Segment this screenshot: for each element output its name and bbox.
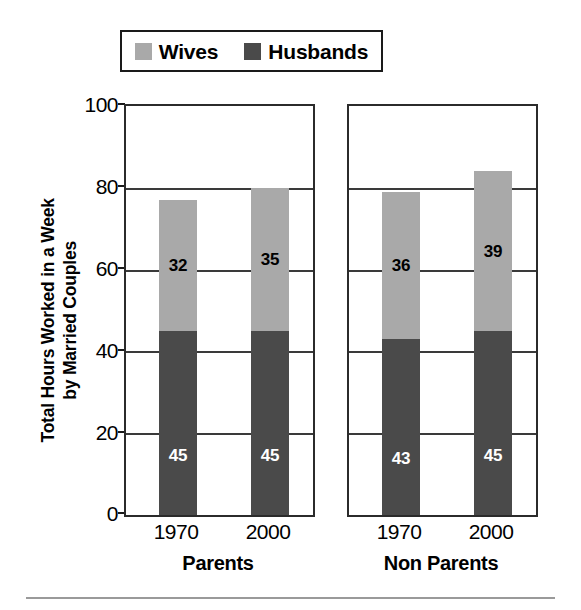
bar-value-husbands: 45 bbox=[474, 447, 512, 464]
legend-label-wives: Wives bbox=[159, 41, 219, 62]
husbands-swatch-icon bbox=[244, 43, 261, 60]
panel-parents: 32 45 35 45 bbox=[124, 104, 315, 517]
legend-item-husbands: Husbands bbox=[244, 41, 368, 62]
x-tick-non-parents-2000: 2000 bbox=[446, 521, 536, 542]
chart-legend: Wives Husbands bbox=[120, 30, 383, 72]
bar-value-wives: 32 bbox=[159, 257, 197, 274]
x-tick-parents-1970: 1970 bbox=[131, 521, 221, 542]
y-axis-ticks: 100 80 60 40 20 0 bbox=[68, 0, 118, 610]
bar-segment-wives: 35 bbox=[251, 188, 289, 331]
legend-item-wives: Wives bbox=[135, 41, 219, 62]
bar-value-husbands: 43 bbox=[382, 450, 420, 467]
y-axis-title-line-1: Total Hours Worked in a Week bbox=[37, 110, 59, 530]
bar-value-husbands: 45 bbox=[251, 447, 289, 464]
bottom-divider bbox=[26, 597, 555, 599]
wives-swatch-icon bbox=[135, 43, 152, 60]
bar-value-wives: 35 bbox=[251, 251, 289, 268]
chart-figure: Wives Husbands Total Hours Worked in a W… bbox=[0, 0, 581, 610]
x-tick-non-parents-1970: 1970 bbox=[354, 521, 444, 542]
bar-segment-husbands: 45 bbox=[159, 331, 197, 515]
panel-non-parents: 36 43 39 45 bbox=[347, 104, 538, 517]
bar-non-parents-1970[interactable]: 36 43 bbox=[382, 192, 420, 515]
x-tick-parents-2000: 2000 bbox=[223, 521, 313, 542]
bar-value-husbands: 45 bbox=[159, 447, 197, 464]
group-label-non-parents: Non Parents bbox=[341, 553, 541, 573]
y-tick-label-40: 40 bbox=[72, 340, 118, 361]
bar-segment-husbands: 43 bbox=[382, 339, 420, 515]
legend-label-husbands: Husbands bbox=[268, 41, 368, 62]
group-label-parents: Parents bbox=[118, 553, 318, 573]
y-tick-label-60: 60 bbox=[72, 258, 118, 279]
bar-value-wives: 36 bbox=[382, 257, 420, 274]
y-tick-label-0: 0 bbox=[72, 503, 118, 524]
y-tick-label-80: 80 bbox=[72, 176, 118, 197]
bar-non-parents-2000[interactable]: 39 45 bbox=[474, 171, 512, 515]
bar-parents-1970[interactable]: 32 45 bbox=[159, 200, 197, 515]
bar-segment-husbands: 45 bbox=[251, 331, 289, 515]
bar-value-wives: 39 bbox=[474, 243, 512, 260]
bar-segment-wives: 36 bbox=[382, 192, 420, 339]
y-tick-label-100: 100 bbox=[72, 94, 118, 115]
bar-segment-wives: 39 bbox=[474, 171, 512, 331]
bar-parents-2000[interactable]: 35 45 bbox=[251, 188, 289, 515]
bar-segment-husbands: 45 bbox=[474, 331, 512, 515]
y-tick-label-20: 20 bbox=[72, 422, 118, 443]
bar-segment-wives: 32 bbox=[159, 200, 197, 331]
